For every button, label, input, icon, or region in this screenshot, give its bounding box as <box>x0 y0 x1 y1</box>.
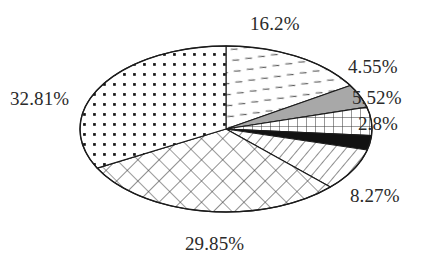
slice-label-8-27: 8.27% <box>350 186 400 205</box>
slice-label-32-81: 32.81% <box>10 89 69 108</box>
pie-slices-group <box>80 46 372 212</box>
slice-label-4-55: 4.55% <box>348 57 398 76</box>
slice-label-16-2: 16.2% <box>250 14 300 33</box>
pie-chart-figure: 16.2% 4.55% 5.52% 2.8% 8.27% 29.85% 32.8… <box>0 0 447 272</box>
slice-label-2-8: 2.8% <box>358 114 398 133</box>
pie-chart-svg <box>0 0 447 272</box>
slice-label-29-85: 29.85% <box>185 234 244 253</box>
slice-label-5-52: 5.52% <box>352 88 402 107</box>
